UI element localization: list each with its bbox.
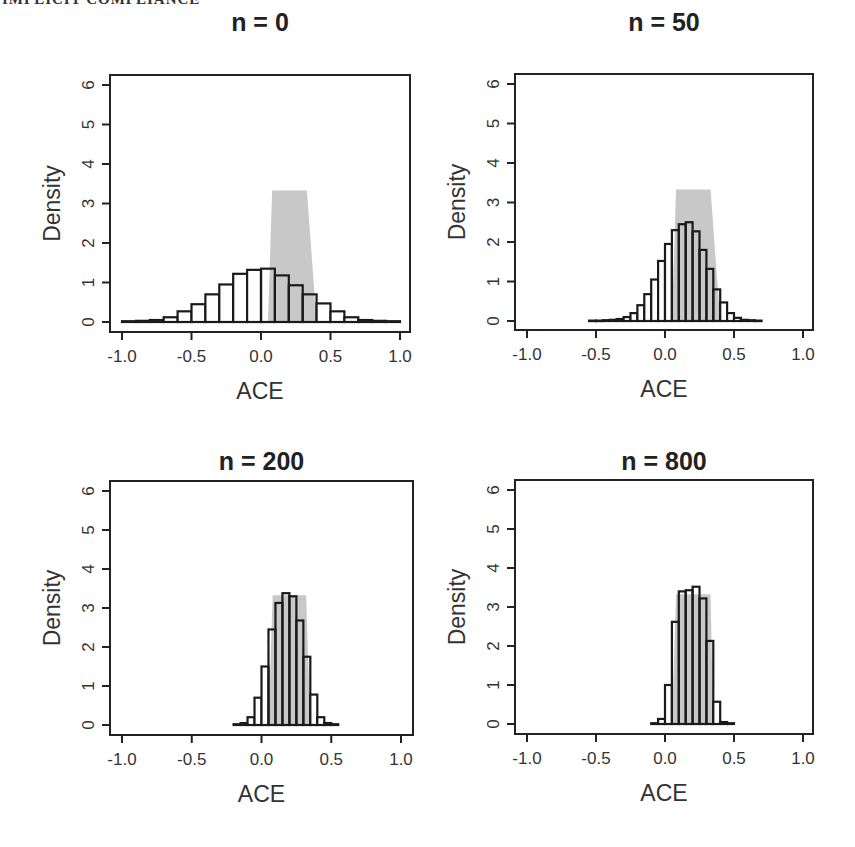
y-tick-label: 2 [484, 237, 503, 246]
histogram-figure: 0123456Density-1.0-0.50.00.51.0ACE012345… [0, 0, 855, 847]
histogram-bar [727, 723, 734, 724]
y-tick-label: 6 [484, 485, 503, 494]
y-tick-label: 6 [79, 80, 98, 89]
x-tick-label: 0.5 [722, 345, 746, 364]
histogram-bar [372, 321, 386, 322]
x-tick-label: -1.0 [107, 750, 136, 769]
y-tick-label: 0 [79, 317, 98, 326]
x-tick-label: 1.0 [791, 345, 815, 364]
panel-title-n0: n = 0 [195, 8, 325, 37]
histogram-bars [122, 269, 400, 322]
y-tick-label: 2 [484, 641, 503, 650]
y-tick-label: 6 [79, 486, 98, 495]
y-tick-label: 4 [79, 564, 98, 573]
y-tick-label: 2 [79, 642, 98, 651]
y-tick-label: 1 [484, 680, 503, 689]
x-tick-label: 0.0 [653, 749, 677, 768]
y-tick-label: 3 [484, 198, 503, 207]
x-tick-label: -0.5 [581, 345, 610, 364]
y-tick-label: 4 [484, 563, 503, 572]
histogram-bar [192, 304, 206, 322]
x-axis-label: ACE [640, 780, 687, 806]
x-tick-label: 1.0 [791, 749, 815, 768]
y-axis-label: Density [444, 163, 470, 240]
x-axis-label: ACE [236, 378, 283, 404]
x-tick-label: 0.5 [722, 749, 746, 768]
y-tick-label: 6 [484, 79, 503, 88]
histogram-bar [150, 320, 164, 322]
y-tick-label: 0 [484, 316, 503, 325]
y-axis-label: Density [444, 568, 470, 645]
x-tick-label: -0.5 [581, 749, 610, 768]
x-tick-label: 1.0 [389, 750, 413, 769]
histogram-bar [219, 284, 233, 322]
x-tick-label: -1.0 [512, 345, 541, 364]
x-tick-label: -0.5 [177, 347, 206, 366]
histogram-bar [122, 321, 136, 322]
histogram-bar [713, 702, 720, 724]
y-tick-label: 4 [484, 158, 503, 167]
panel-title-n800: n = 800 [599, 447, 729, 476]
histogram-bar [136, 321, 150, 322]
panel-title-n200: n = 200 [197, 447, 327, 476]
x-tick-label: 0.0 [653, 345, 677, 364]
y-tick-label: 5 [484, 524, 503, 533]
y-tick-label: 5 [484, 119, 503, 128]
histogram-panel-1: 0123456Density-1.0-0.50.00.51.0ACE [444, 74, 815, 402]
histogram-bar [205, 294, 219, 322]
histogram-bar [317, 303, 331, 322]
histogram-bar [164, 317, 178, 322]
y-tick-label: 1 [79, 278, 98, 287]
histogram-bar [344, 317, 358, 322]
y-tick-label: 2 [79, 238, 98, 247]
y-tick-label: 3 [79, 603, 98, 612]
y-tick-label: 3 [484, 602, 503, 611]
histogram-panel-0: 0123456Density-1.0-0.50.00.51.0ACE [39, 75, 412, 404]
y-tick-label: 3 [79, 199, 98, 208]
x-tick-label: 0.0 [249, 347, 273, 366]
histogram-bar [247, 270, 261, 322]
y-tick-label: 5 [79, 525, 98, 534]
histogram-panel-3: 0123456Density-1.0-0.50.00.51.0ACE [444, 480, 815, 806]
panel-title-n50: n = 50 [599, 8, 729, 37]
histogram-bar [386, 321, 400, 322]
y-tick-label: 4 [79, 159, 98, 168]
y-tick-label: 5 [79, 120, 98, 129]
x-tick-label: -1.0 [107, 347, 136, 366]
histogram-bar [331, 311, 345, 322]
y-tick-label: 0 [484, 719, 503, 728]
x-tick-label: -1.0 [512, 749, 541, 768]
histogram-bar [755, 321, 762, 322]
x-tick-label: 1.0 [388, 347, 412, 366]
x-tick-label: 0.5 [319, 347, 343, 366]
x-tick-label: 0.5 [319, 750, 343, 769]
histogram-bar [178, 311, 192, 322]
y-axis-label: Density [39, 569, 65, 646]
x-axis-label: ACE [640, 376, 687, 402]
histogram-bars [651, 587, 734, 724]
histogram-bar [331, 724, 338, 725]
histogram-panel-2: 0123456Density-1.0-0.50.00.51.0ACE [39, 481, 413, 807]
x-tick-label: 0.0 [250, 750, 274, 769]
histogram-bar [358, 320, 372, 322]
x-axis-label: ACE [238, 781, 285, 807]
y-tick-label: 1 [484, 277, 503, 286]
y-tick-label: 1 [79, 681, 98, 690]
histogram-bar [233, 274, 247, 322]
y-axis-label: Density [39, 165, 65, 242]
y-tick-label: 0 [79, 720, 98, 729]
x-tick-label: -0.5 [177, 750, 206, 769]
